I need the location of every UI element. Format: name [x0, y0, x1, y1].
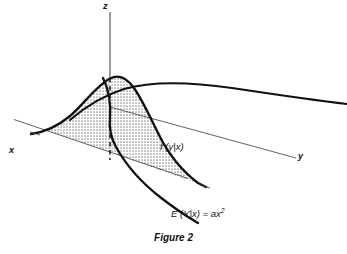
z-axis-label: z	[103, 2, 108, 11]
y-axis-label: y	[298, 152, 303, 161]
x-axis-label: x	[9, 146, 14, 155]
regression-equation-exponent: 2	[221, 207, 225, 214]
figure-caption: Figure 2	[0, 232, 347, 243]
figure-2-container: z x y f (y|x) E (Y|x) = ax2 Figure 2	[0, 0, 347, 254]
density-shaded-region	[34, 77, 204, 186]
conditional-density-label: f (y|x)	[160, 142, 184, 152]
regression-equation-label: E (Y|x) = ax2	[171, 208, 225, 219]
regression-equation-main: E (Y|x) = ax	[171, 208, 221, 219]
